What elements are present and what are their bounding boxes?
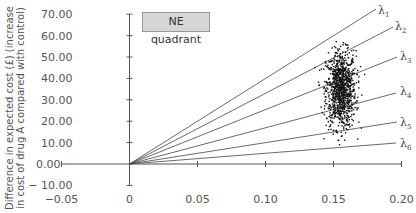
x-tick-label: 0.15 — [321, 193, 346, 206]
y-tick-label: 70.00 — [41, 8, 73, 21]
y-tick-label: 40.00 — [41, 72, 73, 85]
y-tick-label: 60.00 — [41, 30, 73, 43]
scatter-points — [314, 41, 365, 145]
x-tick-label: −0.05 — [45, 193, 79, 206]
y-axis-label-line2: in cost of drug A compared with control) — [15, 7, 26, 209]
lambda-label: λ1 — [378, 4, 389, 19]
lambda-labels: λ1λ2λ3λ4λ5λ6 — [378, 4, 412, 152]
y-tick-label: 0.00 — [36, 158, 61, 171]
y-tick-label: 10.00 — [41, 137, 73, 150]
y-tick-label: − 10.00 — [28, 179, 72, 192]
x-tick-label: 0 — [126, 193, 133, 206]
lambda-label: λ6 — [400, 137, 412, 152]
lambda-label: λ5 — [400, 116, 411, 131]
y-axis-label-line1: Difference in expected cost (£) (increas… — [4, 6, 15, 210]
y-tick-label: 20.00 — [41, 115, 73, 128]
ne-quadrant-annotation: NE quadrant — [142, 12, 210, 32]
y-axis-label: Difference in expected cost (£) (increas… — [4, 6, 26, 210]
tick-labels: −0.0500.050.100.150.2070.0060.0050.0040.… — [28, 8, 413, 206]
x-tick-label: 0.05 — [185, 193, 210, 206]
x-tick-label: 0.10 — [253, 193, 278, 206]
lambda-label: λ4 — [400, 85, 412, 100]
lambda-label: λ2 — [395, 20, 406, 35]
lambda-label: λ3 — [400, 50, 411, 65]
y-tick-label: 30.00 — [41, 94, 73, 107]
y-tick-label: 50.00 — [41, 51, 73, 64]
x-tick-label: 0.20 — [389, 193, 414, 206]
